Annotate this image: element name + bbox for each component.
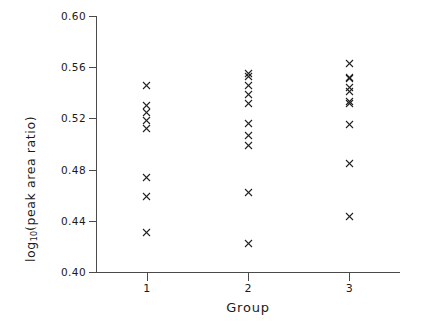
data-point-marker [244,131,253,140]
data-point-marker [142,124,151,133]
data-point-marker [244,141,253,150]
plot-data-area [0,0,435,324]
data-point-marker [244,239,253,248]
data-point-marker [244,119,253,128]
data-point-marker [142,81,151,90]
data-point-marker [244,188,253,197]
data-point-marker [345,87,354,96]
data-point-marker [345,120,354,129]
data-point-marker [244,90,253,99]
data-point-marker [345,212,354,221]
data-point-marker [142,173,151,182]
data-point-marker [142,228,151,237]
data-point-marker [244,81,253,90]
data-point-marker [142,108,151,117]
data-point-marker [345,99,354,108]
data-point-marker [142,192,151,201]
data-point-marker [345,74,354,83]
data-point-marker [345,159,354,168]
data-point-marker [345,59,354,68]
x-axis-title: Group [96,300,400,315]
data-point-marker [244,72,253,81]
data-point-marker [244,99,253,108]
scatter-plot: log10(peak area ratio) 0.400.440.480.520… [0,0,435,324]
